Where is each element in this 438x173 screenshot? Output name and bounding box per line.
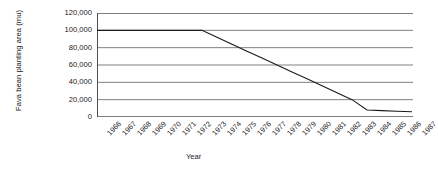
- x-axis-title: Year: [186, 152, 201, 161]
- y-tick-label: 120,000: [30, 9, 92, 17]
- y-tick-label: 100,000: [30, 26, 92, 34]
- y-tick-label: 20,000: [30, 96, 92, 104]
- plot-svg: [97, 13, 413, 117]
- plot-area: [97, 13, 413, 117]
- gridlines: [97, 14, 413, 117]
- y-tick-label: 60,000: [30, 61, 92, 69]
- y-tick-label: 80,000: [30, 44, 92, 52]
- y-tick-label: 40,000: [30, 78, 92, 86]
- y-axis-title: Fava bean planting area (mu): [14, 0, 23, 126]
- y-tick-label: 0: [30, 113, 92, 121]
- x-tick-label: 1987: [421, 120, 438, 137]
- x-axis-tick-labels: 1966196719681969197019711972197319741975…: [97, 120, 413, 154]
- y-axis-tick-labels: 020,00040,00060,00080,000100,000120,000: [30, 13, 92, 117]
